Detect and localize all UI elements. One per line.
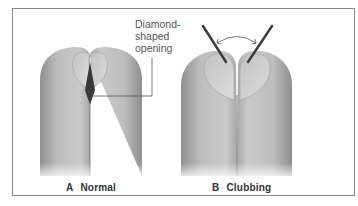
caption-clubbing: BClubbing bbox=[212, 182, 271, 193]
caption-label-clubbing: Clubbing bbox=[226, 182, 271, 193]
caption-label-normal: Normal bbox=[80, 182, 116, 193]
clubbing-fingers bbox=[179, 26, 294, 178]
normal-fingers bbox=[38, 47, 144, 178]
diamond-opening-callout: Diamond- shaped opening bbox=[135, 18, 181, 54]
callout-line-1: Diamond- bbox=[135, 18, 181, 30]
callout-line-2: shaped bbox=[135, 30, 181, 42]
angle-arc bbox=[217, 37, 256, 44]
caption-letter-a: A bbox=[66, 182, 73, 193]
callout-line-3: opening bbox=[135, 42, 181, 54]
caption-letter-b: B bbox=[212, 182, 219, 193]
caption-normal: ANormal bbox=[66, 182, 116, 193]
